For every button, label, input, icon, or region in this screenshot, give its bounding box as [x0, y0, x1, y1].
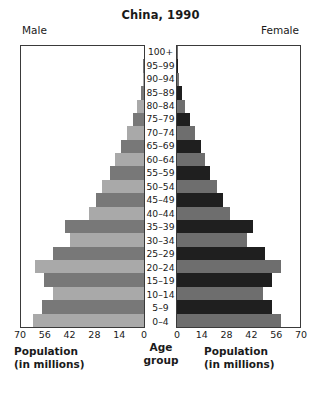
bar-right-85_89: [177, 86, 182, 99]
pyramid-row: [177, 126, 300, 139]
pyramid-row: [21, 100, 144, 113]
pyramid-row: [177, 233, 300, 246]
pyramid-row: [177, 73, 300, 86]
female-x-axis: 01428425670: [177, 329, 301, 343]
pyramid-row: [177, 180, 300, 193]
age-group-label: 50–54: [145, 180, 176, 193]
bar-right-50_54: [177, 180, 217, 193]
bar-left-25_29: [53, 247, 144, 260]
x-tick-label: 70: [295, 329, 307, 340]
pyramid-row: [21, 73, 144, 86]
bar-left-20_24: [35, 260, 144, 273]
pyramid-row: [21, 247, 144, 260]
x-tick-label: 42: [245, 329, 257, 340]
chart-title: China, 1990: [0, 8, 321, 22]
x-tick-label: 0: [174, 329, 180, 340]
age-group-label: 70–74: [145, 126, 176, 139]
pyramid-row: [177, 100, 300, 113]
pyramid-row: [177, 140, 300, 153]
x-tick-label: 56: [39, 329, 51, 340]
x-tick-label: 42: [64, 329, 76, 340]
age-group-label: 0–4: [145, 314, 176, 327]
pyramid-row: [177, 86, 300, 99]
male-plot-panel: [20, 45, 144, 328]
pyramid-row: [21, 233, 144, 246]
pyramid-row: [21, 287, 144, 300]
bar-right-25_29: [177, 247, 265, 260]
pyramid-row: [177, 287, 300, 300]
age-group-axis: 100+95–9990–9485–8980–8475–7970–7465–696…: [144, 45, 177, 328]
bar-right-65_69: [177, 140, 201, 153]
bar-left-30_34: [70, 233, 144, 246]
pyramid-row: [177, 166, 300, 179]
age-group-label: 25–29: [145, 247, 176, 260]
pyramid-row: [177, 300, 300, 313]
male-axis-title: Population (in millions): [14, 345, 85, 370]
age-group-label: 15–19: [145, 274, 176, 287]
age-group-label: 55–59: [145, 166, 176, 179]
pyramid-row: [177, 207, 300, 220]
bar-right-90_94: [177, 73, 179, 86]
pyramid-row: [21, 180, 144, 193]
age-group-label: 30–34: [145, 234, 176, 247]
bar-right-60_64: [177, 153, 205, 166]
age-group-axis-title: Age group: [128, 341, 194, 366]
pyramid-row: [21, 273, 144, 286]
bar-right-35_39: [177, 220, 253, 233]
x-tick-label: 28: [221, 329, 233, 340]
pyramid-row: [177, 46, 300, 59]
bar-right-45_49: [177, 193, 223, 206]
female-axis-title: Population (in millions): [204, 345, 275, 370]
pyramid-row: [21, 193, 144, 206]
age-group-title-line2: group: [128, 354, 194, 367]
bar-right-55_59: [177, 166, 210, 179]
age-group-label: 5–9: [145, 301, 176, 314]
age-group-label: 80–84: [145, 99, 176, 112]
age-group-label: 65–69: [145, 139, 176, 152]
pyramid-row: [21, 220, 144, 233]
female-axis-title-line2: (in millions): [204, 358, 275, 371]
pyramid-row: [177, 193, 300, 206]
pyramid-row: [21, 140, 144, 153]
pyramid-row: [21, 126, 144, 139]
bar-left-75_79: [133, 113, 144, 126]
bar-left-40_44: [89, 207, 144, 220]
age-group-label: 35–39: [145, 220, 176, 233]
bar-right-10_14: [177, 287, 263, 300]
bar-right-0_4: [177, 314, 281, 327]
x-tick-label: 14: [196, 329, 208, 340]
bar-right-75_79: [177, 113, 190, 126]
age-group-title-line1: Age: [128, 341, 194, 354]
x-tick-label: 0: [141, 329, 147, 340]
male-axis-title-line2: (in millions): [14, 358, 85, 371]
bar-left-55_59: [110, 166, 144, 179]
bar-left-60_64: [115, 153, 144, 166]
x-tick-label: 28: [88, 329, 100, 340]
pyramid-row: [21, 86, 144, 99]
male-panel-header: Male: [22, 24, 47, 36]
bar-right-80_84: [177, 100, 185, 113]
bar-left-15_19: [44, 273, 144, 286]
female-panel-header: Female: [261, 24, 299, 36]
x-tick-label: 14: [113, 329, 125, 340]
x-tick-label: 56: [270, 329, 282, 340]
bar-left-70_74: [127, 126, 144, 139]
age-group-label: 20–24: [145, 261, 176, 274]
pyramid-row: [21, 46, 144, 59]
pyramid-row: [21, 314, 144, 327]
bar-right-70_74: [177, 126, 195, 139]
age-group-label: 60–64: [145, 153, 176, 166]
age-group-label: 85–89: [145, 85, 176, 98]
x-tick-label: 70: [14, 329, 26, 340]
bar-left-10_14: [53, 287, 144, 300]
age-group-label: 95–99: [145, 58, 176, 71]
pyramid-row: [177, 314, 300, 327]
male-axis-title-line1: Population: [14, 345, 85, 358]
age-group-label: 90–94: [145, 72, 176, 85]
bar-left-35_39: [65, 220, 144, 233]
pyramid-row: [21, 207, 144, 220]
pyramid-row: [177, 247, 300, 260]
pyramid-row: [21, 166, 144, 179]
pyramid-row: [21, 260, 144, 273]
pyramid-row: [21, 113, 144, 126]
